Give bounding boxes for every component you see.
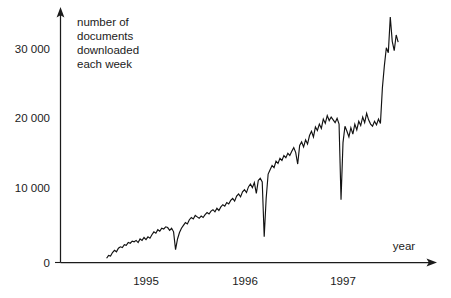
chart-title-block: number of documents downloaded each week	[77, 16, 139, 70]
x-tick-label-1997: 1997	[330, 275, 356, 287]
x-axis-title: year	[393, 240, 416, 252]
x-axis	[61, 259, 438, 267]
chart-title-line-1: number of	[77, 16, 130, 28]
x-tick-label-1996: 1996	[232, 275, 258, 287]
chart-title-line-2: documents	[77, 30, 134, 42]
data-series-line	[107, 17, 399, 258]
y-tick-label-10000: 10 000	[15, 182, 50, 194]
chart-title-line-4: each week	[77, 58, 132, 70]
y-tick-label-0: 0	[44, 257, 50, 269]
y-tick-label-30000: 30 000	[15, 43, 50, 55]
x-tick-label-1995: 1995	[133, 275, 159, 287]
chart-title-line-3: downloaded	[77, 44, 139, 56]
chart-canvas: 30 000 20 000 10 000 0 1995 1996 1997 ye…	[0, 0, 451, 298]
chart-figure: 30 000 20 000 10 000 0 1995 1996 1997 ye…	[0, 0, 451, 298]
y-tick-label-20000: 20 000	[15, 112, 50, 124]
y-axis	[57, 7, 65, 263]
